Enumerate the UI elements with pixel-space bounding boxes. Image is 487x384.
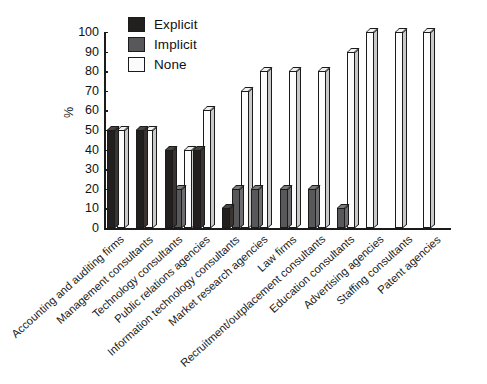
- y-tick-label: 50: [85, 125, 99, 135]
- bar-front-face: [308, 189, 316, 228]
- bar-side-face: [374, 28, 378, 228]
- y-tick-label: 100: [78, 27, 99, 37]
- bar-group: [392, 32, 421, 228]
- x-tick-label: Education consultants: [267, 233, 356, 315]
- legend-label-explicit: Explicit: [154, 17, 198, 32]
- bar-side-face: [201, 146, 205, 228]
- bar-side-face: [211, 107, 215, 228]
- bar-side-face: [115, 126, 119, 228]
- y-tick-label: 80: [85, 66, 99, 76]
- y-tick-label: 20: [85, 184, 99, 194]
- bar-implicit: [251, 189, 259, 228]
- bar-side-face: [230, 205, 234, 228]
- x-tick-label: Technology consultants: [90, 233, 184, 320]
- bar-group: [162, 32, 191, 228]
- bar-side-face: [259, 185, 263, 228]
- bar-side-face: [316, 185, 320, 228]
- bar-group: [420, 32, 449, 228]
- bar-implicit: [337, 208, 345, 228]
- x-tick-label: Accounting and auditing firms: [9, 233, 126, 340]
- bar-group: [334, 32, 363, 228]
- x-tick-label: Management consultants: [54, 233, 155, 326]
- legend-swatch-explicit-icon: [128, 17, 145, 32]
- bar-front-face: [193, 150, 201, 228]
- x-tick-label: Law firms: [255, 233, 299, 274]
- x-tick-label: Recruitment/outplacement consultants: [178, 233, 327, 369]
- y-tick-label: 60: [85, 105, 99, 115]
- bar-front-face: [280, 189, 288, 228]
- y-tick-label: 0: [92, 223, 99, 233]
- bars-container: [104, 32, 449, 228]
- bar-front-face: [337, 208, 345, 228]
- bar-front-face: [107, 130, 115, 228]
- y-tick-mark: [104, 228, 108, 229]
- y-tick-label: 40: [85, 145, 99, 155]
- bar-front-face: [395, 32, 403, 228]
- bar-side-face: [297, 68, 301, 228]
- bar-explicit: [222, 208, 230, 228]
- bar-front-face: [423, 32, 431, 228]
- bar-side-face: [288, 185, 292, 228]
- bar-side-face: [431, 28, 435, 228]
- bar-none: [366, 32, 374, 228]
- bar-none: [423, 32, 431, 228]
- x-tick-label: Advertising agencies: [301, 233, 386, 311]
- bar-front-face: [347, 52, 355, 228]
- bar-implicit: [280, 189, 288, 228]
- bar-group: [190, 32, 219, 228]
- bar-front-face: [222, 208, 230, 228]
- x-tick-label: Public relations agencies: [112, 233, 212, 325]
- bar-side-face: [144, 126, 148, 228]
- x-tick-label: Patent agencies: [375, 233, 443, 296]
- bar-group: [104, 32, 133, 228]
- bar-explicit: [165, 150, 173, 228]
- bar-side-face: [326, 68, 330, 228]
- bar-front-face: [251, 189, 259, 228]
- bar-chart: Explicit Implicit None % 010203040506070…: [0, 0, 487, 384]
- bar-side-face: [345, 205, 349, 228]
- bar-side-face: [268, 68, 272, 228]
- y-tick-label: 70: [85, 86, 99, 96]
- bar-front-face: [366, 32, 374, 228]
- legend-item-explicit: Explicit: [128, 14, 248, 34]
- x-tick-label: Information technology consultants: [105, 233, 242, 358]
- bar-side-face: [125, 126, 129, 228]
- bar-none: [347, 52, 355, 228]
- bar-side-face: [173, 146, 177, 228]
- bar-explicit: [136, 130, 144, 228]
- bar-explicit: [193, 150, 201, 228]
- bar-group: [363, 32, 392, 228]
- bar-side-face: [355, 48, 359, 228]
- y-tick-label: 30: [85, 164, 99, 174]
- bar-group: [219, 32, 248, 228]
- bar-front-face: [136, 130, 144, 228]
- y-axis-label: %: [62, 107, 76, 118]
- bar-side-face: [153, 126, 157, 228]
- plot-area: 0102030405060708090100: [104, 32, 449, 228]
- bar-side-face: [403, 28, 407, 228]
- bar-side-face: [182, 185, 186, 228]
- bar-none: [395, 32, 403, 228]
- x-axis-line: [104, 228, 451, 230]
- y-tick-label: 10: [85, 203, 99, 213]
- bar-explicit: [107, 130, 115, 228]
- bar-side-face: [240, 185, 244, 228]
- x-tick-label: Staffing consultants: [334, 233, 414, 307]
- bar-front-face: [165, 150, 173, 228]
- bar-group: [277, 32, 306, 228]
- y-tick-label: 90: [85, 47, 99, 57]
- bar-group: [133, 32, 162, 228]
- x-tick-label: Market research agencies: [166, 233, 270, 328]
- bar-implicit: [308, 189, 316, 228]
- bar-group: [305, 32, 334, 228]
